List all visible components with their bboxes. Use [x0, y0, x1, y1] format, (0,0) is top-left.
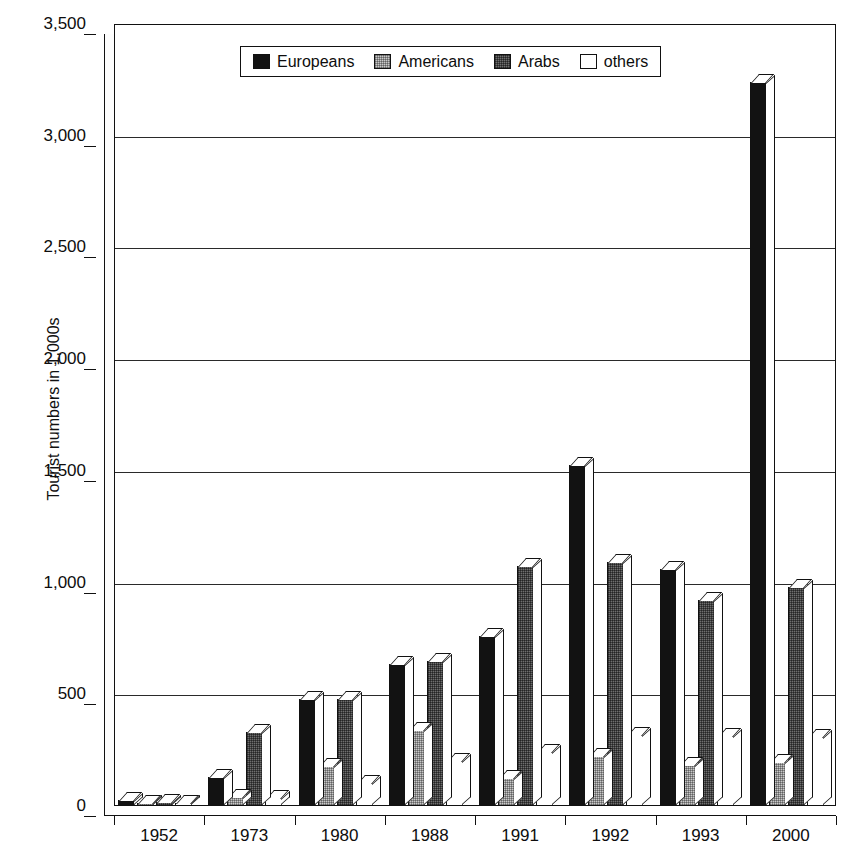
bar-group-1992	[565, 24, 655, 806]
y-tick-mark	[84, 481, 96, 482]
bar-side-face	[443, 654, 452, 805]
bar-group-2000	[746, 24, 836, 806]
bar-side-face	[695, 758, 704, 805]
y-tick-label: 0	[77, 796, 86, 816]
y-axis-ticks: 3,5003,0002,5002,0001,5001,0005000	[0, 0, 96, 855]
x-tick-mark	[114, 816, 115, 825]
bar-others-1952	[175, 803, 192, 806]
bar-chart: Tourist numbers in 1,000s 3,5003,0002,50…	[0, 0, 857, 855]
chart-legend: EuropeansAmericansArabsothers	[240, 46, 661, 77]
legend-item-americans: Americans	[374, 53, 474, 71]
x-tick-mark	[746, 816, 747, 825]
bar-europeans-2000	[750, 82, 767, 806]
y-tick-label: 500	[58, 684, 86, 704]
x-tick-label-1991: 1991	[501, 826, 539, 846]
legend-swatch-americans-icon	[374, 54, 391, 69]
x-axis: 19521973198019881991199219932000	[114, 816, 836, 855]
legend-swatch-arabs-icon	[494, 54, 511, 69]
x-tick-label-1973: 1973	[230, 826, 268, 846]
y-tick-label: 1,500	[43, 461, 86, 481]
bar-group-1988	[385, 24, 475, 806]
x-tick-mark	[565, 816, 566, 825]
bar-side-face	[424, 723, 433, 805]
plot-floor-strip	[104, 806, 836, 816]
bar-side-face	[714, 593, 723, 805]
bar-side-face	[823, 730, 832, 805]
bar-group-1980	[295, 24, 385, 806]
y-tick-mark	[84, 257, 96, 258]
bar-side-face	[405, 657, 414, 805]
bar-europeans-1993	[660, 569, 677, 806]
bar-group-1973	[204, 24, 294, 806]
legend-item-europeans: Europeans	[253, 53, 354, 71]
y-tick-mark	[84, 593, 96, 594]
y-tick-label: 3,500	[43, 14, 86, 34]
bar-europeans-1973	[208, 777, 225, 806]
x-tick-label-1992: 1992	[591, 826, 629, 846]
bar-europeans-1988	[389, 664, 406, 806]
bar-side-face	[495, 629, 504, 805]
legend-label: others	[604, 53, 648, 71]
bar-side-face	[642, 727, 651, 805]
bar-europeans-1991	[479, 636, 496, 806]
bar-side-face	[552, 745, 561, 805]
bar-side-face	[315, 692, 324, 805]
y-tick-mark	[84, 369, 96, 370]
bar-side-face	[353, 692, 362, 805]
x-tick-label-1988: 1988	[411, 826, 449, 846]
bar-group-1952	[114, 24, 204, 806]
y-tick-label: 3,000	[43, 126, 86, 146]
bar-side-face	[604, 749, 613, 805]
bar-side-face	[462, 754, 471, 805]
bar-side-face	[585, 458, 594, 805]
y-tick-mark	[84, 146, 96, 147]
legend-item-others: others	[580, 53, 648, 71]
legend-label: Americans	[398, 53, 474, 71]
bar-side-face	[334, 759, 343, 805]
bar-group-1991	[475, 24, 565, 806]
bars-layer	[114, 24, 836, 806]
bar-americans-1952	[137, 803, 154, 806]
y-tick-mark	[84, 704, 96, 705]
bar-side-face	[623, 555, 632, 805]
bar-side-face	[733, 729, 742, 805]
y-tick-mark	[84, 34, 96, 35]
plot-side-wall	[104, 34, 114, 816]
x-tick-label-1952: 1952	[140, 826, 178, 846]
legend-item-arabs: Arabs	[494, 53, 560, 71]
x-tick-mark	[475, 816, 476, 825]
legend-swatch-others-icon	[580, 54, 597, 69]
bar-europeans-1992	[569, 465, 586, 806]
legend-swatch-europeans-icon	[253, 54, 270, 69]
x-tick-mark	[295, 816, 296, 825]
bar-side-face	[262, 725, 271, 805]
bar-europeans-1980	[299, 699, 316, 806]
x-tick-mark	[836, 816, 837, 825]
y-tick-label: 2,000	[43, 349, 86, 369]
x-tick-label-1993: 1993	[682, 826, 720, 846]
y-tick-label: 1,000	[43, 573, 86, 593]
legend-label: Europeans	[277, 53, 354, 71]
bar-arabs-1952	[156, 802, 173, 806]
x-tick-label-2000: 2000	[772, 826, 810, 846]
x-tick-mark	[385, 816, 386, 825]
x-tick-label-1980: 1980	[321, 826, 359, 846]
bar-side-face	[533, 559, 542, 805]
bar-side-face	[676, 562, 685, 805]
y-tick-mark	[84, 816, 96, 817]
y-tick-label: 2,500	[43, 237, 86, 257]
legend-label: Arabs	[518, 53, 560, 71]
x-tick-mark	[656, 816, 657, 825]
bar-side-face	[785, 755, 794, 805]
bar-europeans-1952	[118, 800, 135, 806]
x-tick-mark	[204, 816, 205, 825]
bar-side-face	[766, 75, 775, 805]
bar-group-1993	[656, 24, 746, 806]
bar-side-face	[804, 580, 813, 805]
